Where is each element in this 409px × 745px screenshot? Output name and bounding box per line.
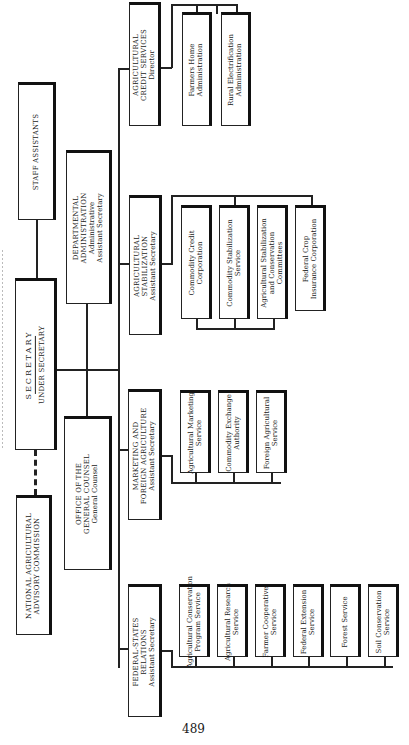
page-header-faint — [2, 250, 3, 450]
agency-box: Farmers Home Administration — [182, 12, 212, 126]
head-line2: FOREIGN AGRICULTURE — [140, 407, 148, 503]
agency-box: Federal Crop Insurance Corporation — [295, 205, 326, 311]
agency-line2: Service — [234, 219, 242, 306]
connector — [271, 656, 273, 668]
agency-box: Commodity Credit Corporation — [181, 205, 212, 319]
under-secretary-title: UNDER SECRETARY — [38, 326, 46, 404]
secretary-label: SECRETARY UNDER SECRETARY — [24, 326, 46, 404]
departmental-administration-box: DEPARTMENTAL ADMINISTRATION Administrati… — [66, 150, 112, 304]
connector — [308, 656, 310, 668]
connector — [171, 482, 281, 484]
head-line2: RELATIONS — [140, 617, 148, 686]
agency-line1: Federal Crop — [301, 219, 309, 300]
agency-line1: Commodity Exchange — [224, 394, 232, 472]
agency-box: Agricultural Marketing Service — [180, 390, 211, 473]
head-line1: AGRICULTURAL — [132, 29, 140, 101]
agency-line2: Program Service — [194, 575, 202, 667]
agency-box: Foreign Agricultural Service — [256, 390, 287, 473]
agency-label: Soil Conservation Service — [374, 590, 390, 653]
division-head-label: FEDERAL-STATES RELATIONS Assistant Secre… — [132, 617, 156, 686]
agency-label: Agricultural Research Service — [223, 582, 239, 660]
connector — [118, 68, 120, 668]
connector — [273, 318, 275, 330]
agency-line2: Service — [308, 589, 316, 653]
general-counsel-label: OFFICE OF THE GENERAL COUNSEL General Co… — [75, 454, 99, 534]
agency-line1: Agricultural Marketing — [186, 391, 194, 473]
agency-line1: Agricultural Research — [223, 582, 231, 660]
agency-line2: Service — [195, 391, 203, 473]
secretary-title: SECRETARY — [24, 326, 33, 404]
da-line1: DEPARTMENTAL — [72, 193, 80, 264]
agency-label: Commodity Credit Corporation — [187, 230, 203, 295]
agency-line2: Administration — [196, 44, 204, 97]
agency-line2: Authority — [233, 394, 241, 472]
agency-label: Federal Crop Insurance Corporation — [301, 219, 317, 300]
agency-line2: and Conservation — [267, 218, 275, 308]
dashed-connector — [34, 450, 37, 495]
agency-box: Federal Extension Service — [293, 584, 324, 657]
connector — [346, 656, 348, 668]
agency-box: Rural Electrification Administration — [221, 12, 251, 126]
da-line3: Administrative — [88, 193, 96, 264]
agency-line1: Commodity Stabilization — [225, 219, 233, 306]
agency-line2: Service — [383, 590, 391, 653]
agency-line2: Insurance Corporation — [310, 219, 318, 300]
agency-line2: Corporation — [196, 230, 204, 295]
agency-label: Agricultural Marketing Service — [186, 391, 202, 473]
connector — [234, 318, 236, 330]
secretary-box: SECRETARY UNDER SECRETARY — [15, 278, 57, 450]
division-head-marketing: MARKETING AND FOREIGN AGRICULTURE Assist… — [128, 389, 162, 520]
advisory-line1: NATIONAL AGRICULTURAL — [25, 513, 33, 619]
divider — [35, 336, 36, 394]
connector — [171, 666, 393, 668]
division-head-label: AGRICULTURAL STABILIZATION Assistant Sec… — [132, 231, 156, 300]
head-line1: FEDERAL-STATES — [132, 617, 140, 686]
gc-line1: OFFICE OF THE — [75, 454, 83, 534]
agency-line1: Rural Electrification — [227, 34, 235, 106]
da-line4: Assistant Secretary — [96, 193, 104, 264]
division-head-credit-services: AGRICULTURAL CREDIT SERVICES Director — [129, 2, 161, 126]
agency-label: Rural Electrification Administration — [227, 34, 243, 106]
agency-line2: Service — [270, 586, 278, 657]
advisory-line2: ADVISORY COMMISSION — [33, 513, 41, 619]
division-head-label: MARKETING AND FOREIGN AGRICULTURE Assist… — [132, 407, 156, 503]
connector — [384, 656, 386, 668]
agency-box: Commodity Exchange Authority — [218, 390, 249, 473]
advisory-commission-box: NATIONAL AGRICULTURAL ADVISORY COMMISSIO… — [16, 495, 52, 635]
head-line1: MARKETING AND — [132, 407, 140, 503]
agency-label: Federal Extension Service — [299, 589, 315, 653]
head-line2: CREDIT SERVICES — [140, 29, 148, 101]
agency-line1: Foreign Agricultural — [262, 396, 270, 469]
gc-line3: General Counsel — [91, 454, 99, 534]
agency-line1: Agricultural Stabilization — [259, 218, 267, 308]
connector — [171, 4, 173, 68]
page-number: 489 — [182, 722, 205, 736]
agency-line1: Farmers Home — [188, 44, 196, 97]
advisory-commission-label: NATIONAL AGRICULTURAL ADVISORY COMMISSIO… — [25, 513, 41, 619]
agency-line1: Forest Service — [340, 596, 348, 647]
agency-label: Agricultural Stabilization and Conservat… — [259, 218, 283, 308]
agency-label: Commodity Exchange Authority — [224, 394, 240, 472]
connector — [171, 650, 173, 667]
head-line3: Assistant Secretary — [149, 231, 157, 300]
agency-label: Farmer Cooperative Service — [261, 586, 277, 657]
connector — [171, 195, 313, 197]
agency-label: Agricultural Conservation Program Servic… — [185, 575, 201, 667]
head-line1: AGRICULTURAL — [132, 231, 140, 300]
agency-box: Commodity Stabilization Service — [219, 205, 250, 319]
agency-label: Farmers Home Administration — [188, 44, 204, 97]
agency-line1: Federal Extension — [299, 589, 307, 653]
head-line3: Assistant Secretary — [148, 407, 156, 503]
agency-line1: Soil Conservation — [374, 590, 382, 653]
agency-line2: Administration — [235, 34, 243, 106]
connector — [196, 318, 198, 330]
agency-line1: Commodity Credit — [187, 230, 195, 295]
agency-label: Forest Service — [340, 596, 348, 647]
agency-line1: Farmer Cooperative — [261, 586, 269, 657]
agency-label: Commodity Stabilization Service — [225, 219, 241, 306]
division-head-label: AGRICULTURAL CREDIT SERVICES Director — [132, 29, 156, 101]
agency-line2: Service — [271, 396, 279, 469]
connector — [171, 195, 173, 265]
agency-box: Forest Service — [330, 584, 361, 657]
division-head-federal-states: FEDERAL-STATES RELATIONS Assistant Secre… — [128, 584, 162, 717]
